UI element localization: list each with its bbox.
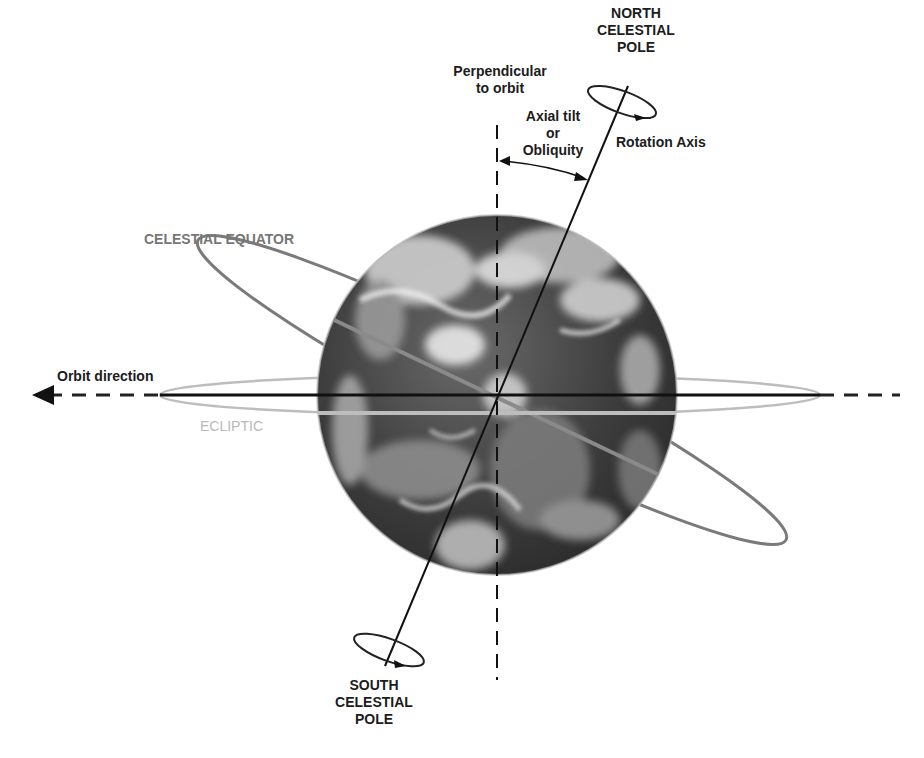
arrow-left-icon [32,385,54,405]
perpendicular-line-1: Perpendicular [448,63,552,80]
south-pole-line-2: CELESTIAL [334,694,414,711]
perpendicular-label: Perpendicular to orbit [448,63,552,97]
north-pole-line-1: NORTH [596,5,676,22]
north-pole-line-2: CELESTIAL [596,22,676,39]
south-pole-line-3: POLE [334,711,414,728]
south-pole-line-1: SOUTH [334,677,414,694]
axial-tilt-line-3: Obliquity [513,142,593,159]
axial-tilt-line-2: or [513,125,593,142]
axial-tilt-line-1: Axial tilt [513,108,593,125]
north-pole-line-3: POLE [596,39,676,56]
north-celestial-pole-label: NORTH CELESTIAL POLE [596,5,676,56]
rotation-axis-label: Rotation Axis [616,134,706,151]
south-celestial-pole-label: SOUTH CELESTIAL POLE [334,677,414,728]
ecliptic-label: ECLIPTIC [200,418,263,435]
obliquity-arc [499,156,588,181]
celestial-equator-label: CELESTIAL EQUATOR [144,231,294,248]
axial-tilt-label: Axial tilt or Obliquity [513,108,593,159]
rotation-ellipse-south-icon [350,627,427,673]
orbit-direction-label: Orbit direction [57,368,153,385]
arc-arrow-right-icon [574,172,588,181]
axial-tilt-diagram: NORTH CELESTIAL POLE Perpendicular to or… [0,0,924,758]
perpendicular-line-2: to orbit [448,80,552,97]
arc-arrow-left-icon [499,156,510,166]
